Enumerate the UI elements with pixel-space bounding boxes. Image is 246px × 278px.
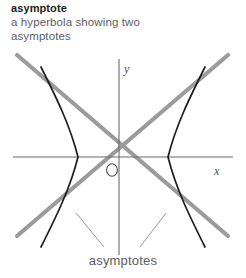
caption-block: asymptote a hyperbola showing two asympt… bbox=[11, 2, 233, 43]
hyperbola-figure: y x asymptotes bbox=[0, 45, 246, 278]
x-axis-label: x bbox=[213, 164, 220, 178]
coordinate-axes bbox=[13, 59, 233, 255]
hyperbola-diagram-svg: y x asymptotes bbox=[0, 45, 246, 278]
origin-label-O bbox=[107, 164, 118, 176]
leader-line-right bbox=[140, 213, 166, 247]
asymptotes-callout-label: asymptotes bbox=[89, 253, 158, 268]
leader-line-left bbox=[76, 213, 104, 247]
gloss-line-2: asymptotes bbox=[11, 29, 233, 43]
gloss-line-1: a hyperbola showing two bbox=[11, 15, 233, 29]
headword: asymptote bbox=[11, 2, 233, 15]
y-axis-label: y bbox=[123, 62, 130, 76]
callout-leader-lines bbox=[76, 213, 166, 247]
dictionary-illustration-page: asymptote a hyperbola showing two asympt… bbox=[0, 0, 246, 278]
